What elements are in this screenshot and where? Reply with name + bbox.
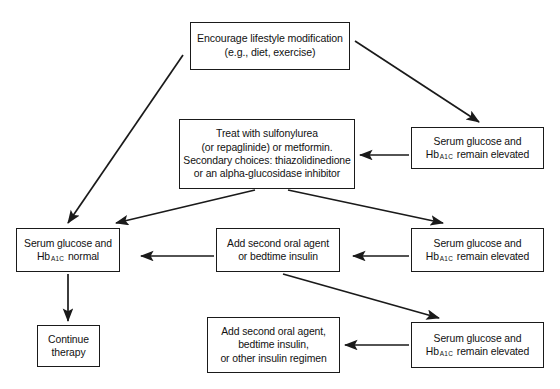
serum-glucose-elevated-box-1: Serum glucose and HbA1C remain elevated: [411, 127, 544, 169]
treat-text: Treat with sulfonylurea (or repaglinide)…: [180, 127, 354, 180]
normal-text: Serum glucose and HbA1C normal: [17, 237, 119, 264]
serum-glucose-elevated-box-3: Serum glucose and HbA1C remain elevated: [411, 322, 544, 368]
serum-glucose-normal-box: Serum glucose and HbA1C normal: [16, 228, 120, 272]
elevated-1-text: Serum glucose and HbA1C remain elevated: [412, 135, 543, 162]
edge-treat-to-normal: [116, 190, 255, 223]
lifestyle-text: Encourage lifestyle modification (e.g., …: [191, 32, 349, 59]
hba1c-subscript: A1C: [439, 350, 454, 357]
add-second-text: Add second oral agent or bedtime insulin: [217, 237, 339, 264]
edge-add-second-to-elevated-3: [283, 274, 439, 318]
hba1c-subscript: A1C: [50, 255, 65, 262]
edge-treat-to-elevated-2: [288, 190, 443, 223]
edge-lifestyle-to-elevated-1: [355, 41, 479, 122]
serum-glucose-elevated-box-2: Serum glucose and HbA1C remain elevated: [411, 228, 544, 272]
hba1c-subscript: A1C: [439, 153, 454, 160]
continue-therapy-text: Continue therapy: [38, 333, 99, 360]
elevated-2-text: Serum glucose and HbA1C remain elevated: [412, 237, 543, 264]
encourage-lifestyle-modification-box: Encourage lifestyle modification (e.g., …: [190, 22, 350, 70]
treat-with-sulfonylurea-box: Treat with sulfonylurea (or repaglinide)…: [179, 119, 355, 189]
add-second-oral-agent-bedtime-insulin-box: Add second oral agent, bedtime insulin, …: [207, 317, 340, 373]
add-regimen-text: Add second oral agent, bedtime insulin, …: [208, 325, 339, 365]
elevated-3-text: Serum glucose and HbA1C remain elevated: [412, 332, 543, 359]
flowchart-canvas: Encourage lifestyle modification (e.g., …: [0, 0, 560, 389]
hba1c-subscript: A1C: [439, 255, 454, 262]
continue-therapy-box: Continue therapy: [37, 325, 100, 367]
edge-lifestyle-to-normal: [68, 55, 183, 223]
add-second-oral-agent-box: Add second oral agent or bedtime insulin: [216, 228, 340, 272]
